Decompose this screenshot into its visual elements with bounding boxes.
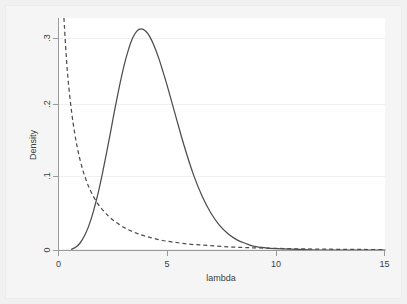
x-ticklabel-15: 15 bbox=[379, 259, 389, 269]
x-axis-title: lambda bbox=[206, 273, 236, 283]
axes bbox=[58, 18, 385, 251]
x-tickmarks bbox=[59, 251, 385, 256]
series-dashed-density bbox=[64, 18, 385, 250]
x-ticklabels: 0 5 10 15 bbox=[56, 259, 390, 269]
y-ticklabel-0: 0 bbox=[42, 247, 52, 252]
y-ticklabel-0.1: .1 bbox=[42, 172, 52, 180]
chart-svg: .3 .2 .1 0 Density 0 5 10 15 lambda bbox=[0, 0, 407, 304]
y-ticklabel-0.3: .3 bbox=[42, 34, 52, 42]
x-ticklabel-0: 0 bbox=[56, 259, 61, 269]
y-ticklabels: .3 .2 .1 0 bbox=[42, 34, 52, 252]
y-axis-title: Density bbox=[28, 129, 38, 160]
series-solid-density bbox=[72, 29, 385, 250]
figure-canvas: .3 .2 .1 0 Density 0 5 10 15 lambda bbox=[0, 0, 407, 304]
y-tickmarks bbox=[53, 38, 58, 250]
x-ticklabel-10: 10 bbox=[271, 259, 281, 269]
y-ticklabel-0.2: .2 bbox=[42, 100, 52, 108]
x-ticklabel-5: 5 bbox=[164, 259, 169, 269]
gridlines bbox=[58, 38, 385, 249]
